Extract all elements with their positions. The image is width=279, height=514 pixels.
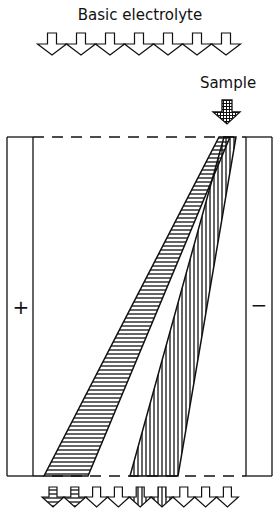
inlet-arrow-icon <box>183 33 212 55</box>
svg-text:−: − <box>251 293 268 317</box>
inlet-arrow-icon <box>125 33 154 55</box>
outlet-arrow-icon-horizontal <box>64 487 86 507</box>
inlet-arrow-icon <box>38 33 67 55</box>
outlet-arrow-icon-empty <box>86 487 108 507</box>
plus-sign-icon: + <box>13 295 30 319</box>
inlet-arrows <box>38 33 241 55</box>
inlet-arrow-icon <box>212 33 241 55</box>
inlet-arrow-icon <box>154 33 183 55</box>
basic-electrolyte-label: Basic electrolyte <box>78 6 202 24</box>
outlet-arrow-icon-horizontal <box>42 487 64 507</box>
sample-arrow-icon <box>213 100 240 124</box>
outlet-arrows <box>42 487 238 507</box>
outlet-arrow-icon-vertical <box>129 487 151 507</box>
inlet-arrow-icon <box>67 33 96 55</box>
outlet-arrow-icon-empty <box>195 487 217 507</box>
electrophoresis-diagram: Basic electrolyte Sample + − <box>0 0 279 514</box>
minus-sign-icon: − <box>251 293 268 317</box>
svg-text:+: + <box>13 295 30 319</box>
inlet-arrow-icon <box>96 33 125 55</box>
sample-label: Sample <box>200 74 256 92</box>
outlet-arrow-icon-empty <box>107 487 129 507</box>
outlet-arrow-icon-empty <box>216 487 238 507</box>
outlet-arrow-icon-empty <box>173 487 195 507</box>
outlet-arrow-icon-vertical <box>151 487 173 507</box>
